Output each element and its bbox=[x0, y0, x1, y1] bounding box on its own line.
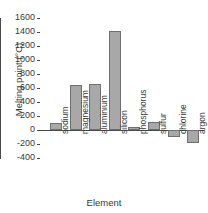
x-category-label: chlorine bbox=[178, 104, 188, 134]
x-category-label: sulfur bbox=[158, 113, 168, 134]
bar-chart: Melting point (°C) -400-2000200400600800… bbox=[0, 0, 208, 213]
y-tick-label: 0 bbox=[30, 124, 35, 134]
x-category-label: magnesium bbox=[80, 90, 90, 134]
y-tick-label: -400 bbox=[17, 152, 35, 162]
x-category-label: silicon bbox=[119, 110, 129, 134]
y-tick-label: 800 bbox=[20, 68, 35, 78]
x-category-label: sodium bbox=[60, 107, 70, 134]
y-tick-label: 1400 bbox=[15, 26, 35, 36]
y-tick-label: -200 bbox=[17, 138, 35, 148]
y-axis-line bbox=[0, 18, 1, 159]
y-tick-label: 600 bbox=[20, 82, 35, 92]
x-category-label: argon bbox=[197, 112, 207, 134]
y-tick-label: 1200 bbox=[15, 40, 35, 50]
y-tick-mark bbox=[37, 158, 40, 159]
x-category-label: aluminium bbox=[99, 95, 109, 134]
x-category-label: phosphorus bbox=[138, 90, 148, 134]
x-axis-title: Element bbox=[0, 197, 208, 208]
y-tick-label: 1000 bbox=[15, 54, 35, 64]
y-tick-label: 200 bbox=[20, 110, 35, 120]
y-tick-label: 1600 bbox=[15, 12, 35, 22]
plot-area bbox=[40, 18, 205, 158]
y-tick-label: 400 bbox=[20, 96, 35, 106]
